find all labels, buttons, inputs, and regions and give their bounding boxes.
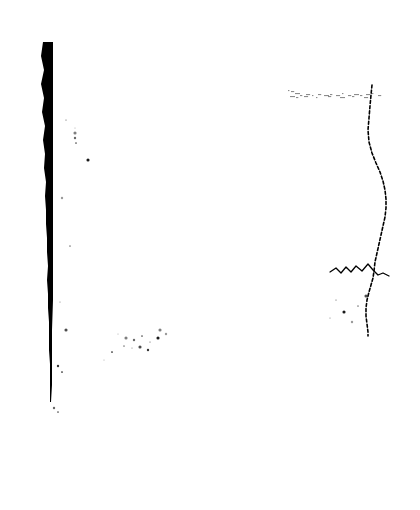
- page-background: [0, 0, 420, 510]
- scan-artifact-layer: [0, 0, 420, 510]
- scanned-page: Scanned document page: [0, 0, 420, 510]
